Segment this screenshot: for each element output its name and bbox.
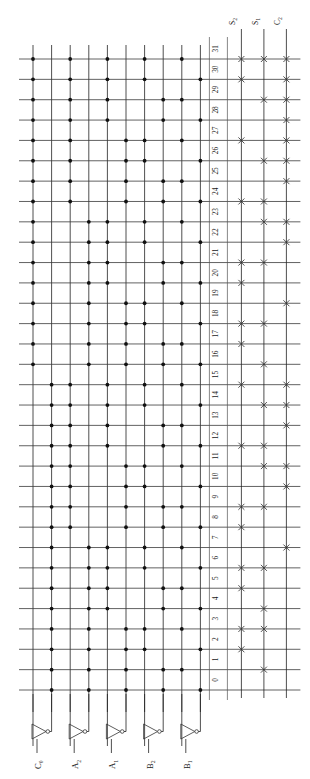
decoder-dot: [180, 464, 184, 468]
word-line-number: 4: [211, 596, 220, 600]
decoder-dot: [124, 362, 128, 366]
decoder-dot: [143, 383, 147, 387]
word-line-number: 30: [211, 65, 220, 73]
decoder-dot: [180, 98, 184, 102]
decoder-dot: [161, 342, 165, 346]
decoder-dot: [50, 607, 54, 611]
decoder-dot: [68, 525, 72, 529]
word-line-number: 10: [211, 472, 220, 480]
decoder-dot: [161, 586, 165, 590]
decoder-dot: [199, 403, 203, 407]
decoder-dot: [50, 668, 54, 672]
decoder-dot: [199, 240, 203, 244]
decoder-dot: [31, 57, 35, 61]
decoder-dot: [199, 688, 203, 692]
decoder-dot: [180, 505, 184, 509]
input-label-subscript: 2: [76, 760, 82, 763]
decoder-dot: [68, 179, 72, 183]
decoder-dot: [124, 525, 128, 529]
decoder-dot: [180, 342, 184, 346]
word-line-number: 31: [211, 45, 220, 53]
inverter-bubble: [195, 730, 199, 734]
output-label-subscript: 2: [277, 17, 283, 20]
decoder-dot: [180, 261, 184, 265]
decoder-dot: [87, 566, 91, 570]
decoder-dot: [31, 77, 35, 81]
word-line-number: 20: [211, 269, 220, 277]
decoder-dot: [68, 423, 72, 427]
decoder-dot: [31, 322, 35, 326]
decoder-dot: [31, 281, 35, 285]
decoder-dot: [87, 362, 91, 366]
decoder-dot: [31, 179, 35, 183]
decoder-dot: [161, 179, 165, 183]
word-line-number: 5: [211, 576, 220, 580]
decoder-dot: [143, 464, 147, 468]
decoder-dot: [106, 261, 110, 265]
decoder-dot: [180, 57, 184, 61]
decoder-dot: [199, 525, 203, 529]
decoder-dot: [68, 444, 72, 448]
decoder-dot: [50, 586, 54, 590]
decoder-dot: [143, 240, 147, 244]
decoder-dot: [31, 342, 35, 346]
decoder-dot: [106, 444, 110, 448]
decoder-dot: [106, 383, 110, 387]
diagram-canvas: 0123456789101112131415161718192021222324…: [0, 0, 310, 779]
decoder-dot: [124, 322, 128, 326]
decoder-dot: [106, 240, 110, 244]
decoder-dot: [143, 301, 147, 305]
decoder-dot: [31, 98, 35, 102]
decoder-dot: [180, 139, 184, 143]
decoder-dot: [124, 342, 128, 346]
output-label-subscript: 2: [232, 18, 238, 21]
decoder-dot: [50, 566, 54, 570]
decoder-dot: [180, 220, 184, 224]
decoder-dot: [199, 118, 203, 122]
decoder-dot: [143, 139, 147, 143]
decoder-dot: [31, 159, 35, 163]
decoder-dot: [106, 546, 110, 550]
decoder-dot: [106, 220, 110, 224]
decoder-dot: [31, 200, 35, 204]
word-line-number: 22: [211, 228, 220, 236]
decoder-dot: [31, 220, 35, 224]
word-line-number: 29: [211, 86, 220, 94]
word-line-number: 2: [211, 637, 220, 641]
decoder-dot: [124, 159, 128, 163]
decoder-dot: [68, 485, 72, 489]
inverter-bubble: [120, 730, 124, 734]
word-line-number: 25: [211, 167, 220, 175]
decoder-dot: [143, 403, 147, 407]
decoder-dot: [161, 281, 165, 285]
input-label-subscript: 2: [150, 760, 156, 763]
decoder-dot: [199, 77, 203, 81]
decoder-dot: [161, 362, 165, 366]
decoder-dot: [161, 200, 165, 204]
decoder-dot: [161, 607, 165, 611]
decoder-dot: [87, 342, 91, 346]
decoder-dot: [31, 240, 35, 244]
decoder-dot: [31, 301, 35, 305]
decoder-dot: [68, 139, 72, 143]
decoder-dot: [199, 281, 203, 285]
decoder-dot: [124, 464, 128, 468]
decoder-dot: [106, 403, 110, 407]
decoder-dot: [161, 118, 165, 122]
word-line-number: 6: [211, 556, 220, 560]
decoder-dot: [50, 423, 54, 427]
decoder-dot: [180, 383, 184, 387]
decoder-dot: [68, 383, 72, 387]
decoder-dot: [31, 139, 35, 143]
decoder-dot: [106, 57, 110, 61]
inverter-bubble: [83, 730, 87, 734]
word-line-number: 19: [211, 289, 220, 297]
decoder-dot: [87, 627, 91, 631]
decoder-dot: [87, 240, 91, 244]
decoder-dot: [50, 525, 54, 529]
decoder-dot: [199, 200, 203, 204]
decoder-dot: [180, 423, 184, 427]
decoder-dot: [199, 322, 203, 326]
decoder-dot: [143, 627, 147, 631]
decoder-dot: [31, 261, 35, 265]
